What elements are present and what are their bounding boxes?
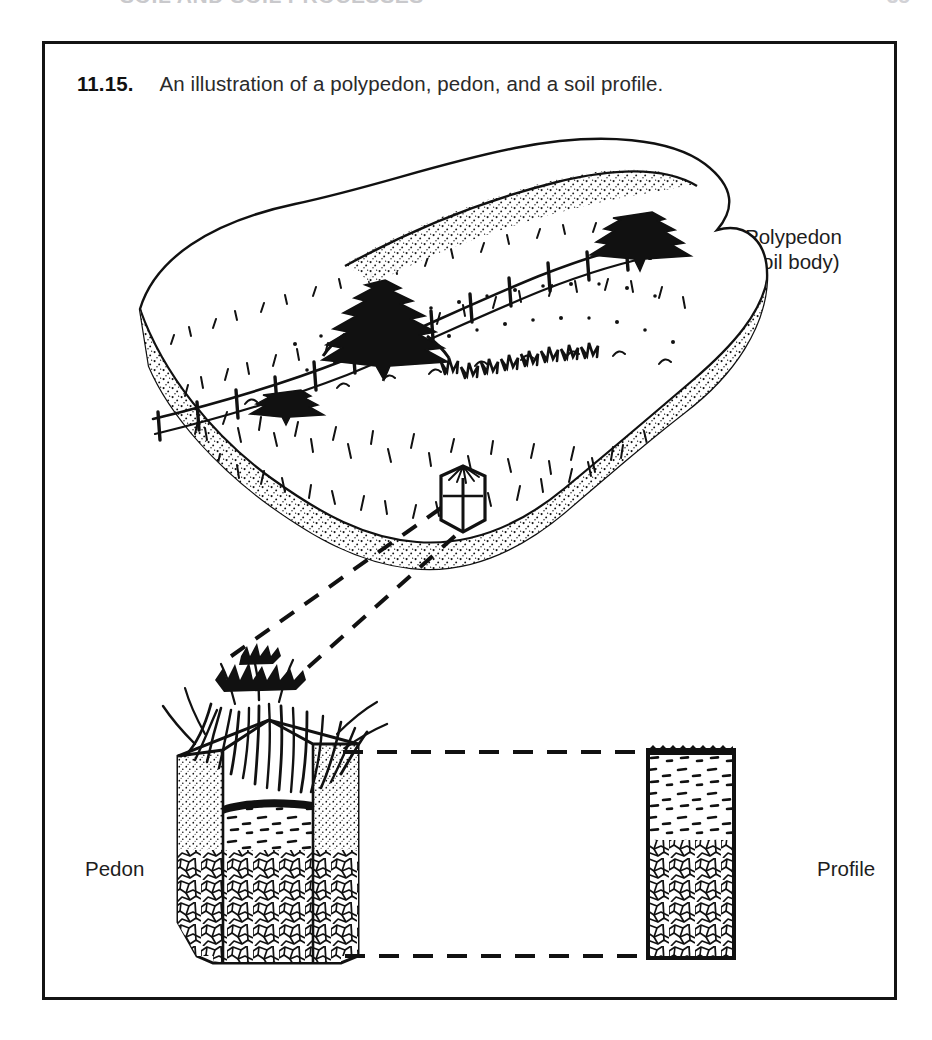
- profile-panel: [647, 745, 734, 958]
- pedon-grass-mass: [215, 643, 306, 692]
- pedon-marker: [441, 466, 485, 532]
- pedon-left-face-lower: [178, 850, 223, 963]
- polypedon-block: [133, 139, 767, 615]
- page-top-strip: SOIL AND SOIL PROCESSES 35: [0, 0, 932, 22]
- pedon-right-face-upper: [313, 744, 358, 862]
- pedon-column: [163, 643, 387, 963]
- pedon-front-face-lower: [223, 850, 313, 963]
- page-folio: 35: [887, 0, 910, 8]
- pedon-right-face-lower: [313, 850, 358, 963]
- leader-lines-horizontal: [343, 752, 695, 956]
- running-head: SOIL AND SOIL PROCESSES: [120, 0, 424, 8]
- pedon-left-face-upper: [178, 750, 223, 862]
- figure-frame: 11.15.An illustration of a polypedon, pe…: [42, 41, 897, 1000]
- figure-artwork: [45, 44, 900, 1003]
